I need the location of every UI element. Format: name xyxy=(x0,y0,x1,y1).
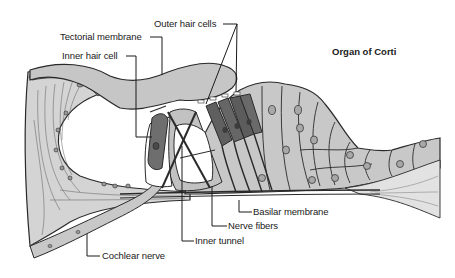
organ-of-corti-diagram: Outer hair cells Tectorial membrane Inne… xyxy=(0,0,455,278)
label-basilar-membrane: Basilar membrane xyxy=(253,207,329,217)
label-tectorial-membrane: Tectorial membrane xyxy=(60,32,142,42)
label-outer-hair-cells: Outer hair cells xyxy=(154,19,216,29)
diagram-title: Organ of Corti xyxy=(332,47,396,57)
label-cochlear-nerve: Cochlear nerve xyxy=(102,251,165,261)
label-inner-tunnel: Inner tunnel xyxy=(195,236,244,246)
label-nerve-fibers: Nerve fibers xyxy=(228,221,278,231)
label-inner-hair-cell: Inner hair cell xyxy=(62,51,118,61)
